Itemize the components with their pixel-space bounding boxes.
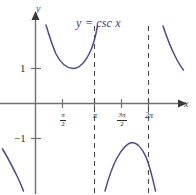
x-axis — [0, 100, 187, 108]
x-tick-2pi-label: 2π — [141, 112, 157, 120]
x-axis-label: x — [184, 99, 188, 109]
function-title-label: y = csc x — [76, 17, 121, 29]
y-axis — [32, 11, 40, 194]
asymptotes — [95, 26, 149, 194]
y-tick-1-label: 1 — [20, 63, 26, 74]
csc-branch-pi-to-2pi — [105, 143, 156, 192]
csc-function-graph-figure: y = csc x y x 1 −1 π 2 π 3π 2 2π — [0, 0, 196, 195]
fraction-denominator: 2 — [60, 121, 66, 128]
fraction-3pi-over-2: 3π 2 — [117, 112, 126, 128]
csc-branch-right-partial — [163, 26, 184, 70]
x-tick-3pi-over-2-label: 3π 2 — [113, 111, 131, 128]
fraction-denominator: 2 — [117, 121, 126, 128]
x-tick-pi-over-2-label: π 2 — [55, 111, 71, 128]
x-tick-pi-label: π — [88, 112, 102, 120]
csc-branch-0-to-pi — [46, 25, 98, 69]
y-axis-label: y — [36, 4, 40, 14]
y-tick-neg1-label: −1 — [14, 133, 26, 144]
fraction-pi-over-2: π 2 — [60, 112, 66, 128]
csc-branch-left-partial — [3, 149, 24, 191]
csc-curve — [3, 25, 184, 191]
